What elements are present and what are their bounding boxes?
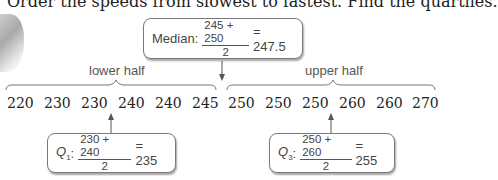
value: 270 [412,95,439,111]
value: 250 [302,95,329,111]
value: 245 [192,95,219,111]
value: 220 [7,95,34,111]
q1-box: Q1 : 230 + 240 2 = 235 [47,133,176,173]
value: 240 [155,95,182,111]
median-result: = 247.5 [253,24,290,54]
q1-numerator: 230 + 240 [78,133,131,160]
q3-numerator: 250 + 260 [300,133,351,160]
median-box: Median: 245 + 250 2 = 247.5 [143,18,303,59]
median-numerator: 245 + 250 [202,19,249,46]
upper-half-label: upper half [305,63,363,78]
value: 250 [265,95,292,111]
value: 260 [376,95,403,111]
q3-colon: : [293,146,297,161]
lower-half-label: lower half [89,63,145,78]
value: 260 [339,95,366,111]
value: 230 [81,95,108,111]
median-denominator: 2 [222,46,228,59]
q3-label: Q3 [278,144,293,162]
q3-letter: Q [278,144,288,159]
q1-letter: Q [56,144,66,159]
q3-result: = 255 [356,138,386,168]
median-label: Median: [152,31,198,46]
q1-colon: : [71,146,75,161]
q3-denominator: 2 [323,160,329,173]
value: 250 [228,95,255,111]
q1-label: Q1 [56,144,71,162]
q1-result: = 235 [135,138,167,168]
q1-denominator: 2 [102,160,108,173]
value: 240 [118,95,145,111]
q1-fraction: 230 + 240 2 [78,133,131,173]
value: 230 [44,95,71,111]
median-fraction: 245 + 250 2 [202,19,249,59]
q3-fraction: 250 + 260 2 [300,133,351,173]
q3-box: Q3 : 250 + 260 2 = 255 [269,133,395,173]
